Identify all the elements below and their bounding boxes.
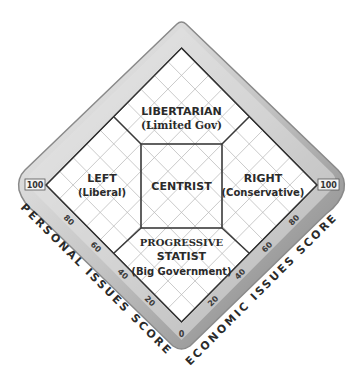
left-subtitle: (Liberal)	[78, 187, 126, 198]
statist-title2: STATIST	[157, 250, 207, 263]
libertarian-subtitle: (Limited Gov)	[141, 119, 222, 131]
nolan-chart: LIBERTARIAN (Limited Gov) LEFT (Liberal)…	[0, 0, 359, 379]
personal-max-box: 100	[25, 179, 45, 190]
personal-max-label: 100	[27, 181, 44, 190]
origin-label: 0	[179, 330, 185, 339]
centrist-title: CENTRIST	[151, 180, 212, 193]
libertarian-title: LIBERTARIAN	[141, 105, 221, 118]
left-title: LEFT	[87, 172, 117, 185]
right-subtitle: (Conservative)	[222, 187, 305, 198]
economic-max-label: 100	[320, 181, 337, 190]
economic-max-box: 100	[318, 179, 339, 190]
statist-subtitle: (Big Government)	[131, 266, 231, 277]
right-title: RIGHT	[244, 172, 283, 185]
statist-title: PROGRESSIVE	[140, 237, 224, 248]
region-centrist: CENTRIST	[151, 180, 212, 193]
